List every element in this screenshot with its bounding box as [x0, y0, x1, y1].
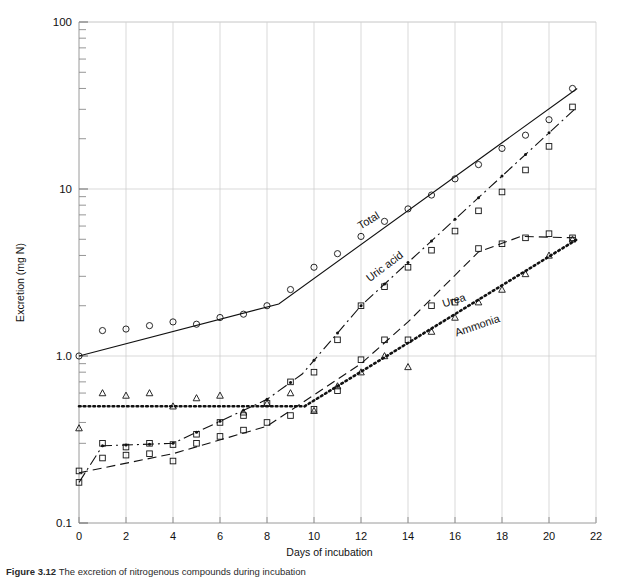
excretion-chart: 0.11.0101000246810121416182022 TotalUric… [0, 0, 627, 580]
y-axis-title: Excretion (mg N) [14, 243, 26, 322]
x-tick-label: 0 [76, 530, 82, 542]
x-tick-label: 18 [496, 530, 508, 542]
data-point-dot [101, 444, 104, 447]
x-tick-label: 4 [170, 530, 176, 542]
data-point-dot [454, 218, 457, 221]
caption-text: The excretion of nitrogenous compounds d… [59, 566, 306, 577]
y-tick-label: 0.1 [56, 517, 72, 529]
x-tick-label: 16 [449, 530, 461, 542]
y-tick-label: 1.0 [56, 350, 72, 362]
data-point-dot [501, 175, 504, 178]
figure-container: 0.11.0101000246810121416182022 TotalUric… [0, 0, 627, 580]
y-tick-label: 100 [53, 16, 72, 28]
x-axis-title: Days of incubation [286, 546, 373, 558]
data-point-dot [219, 420, 222, 423]
x-tick-label: 6 [217, 530, 223, 542]
x-tick-label: 8 [264, 530, 270, 542]
x-tick-label: 2 [123, 530, 129, 542]
x-tick-label: 22 [590, 530, 602, 542]
x-tick-label: 20 [543, 530, 555, 542]
data-point-dot [289, 381, 292, 384]
data-point-dot [148, 443, 151, 446]
data-point-dot [524, 153, 527, 156]
x-tick-label: 14 [402, 530, 414, 542]
data-point-dot [313, 359, 316, 362]
data-point-dot [336, 332, 339, 335]
data-point-dot [195, 431, 198, 434]
figure-caption: Figure 3.12 The excretion of nitrogenous… [6, 566, 621, 579]
data-point-dot [430, 239, 433, 242]
chart-background [0, 0, 627, 580]
data-point-dot [383, 283, 386, 286]
data-point-dot [477, 196, 480, 199]
caption-number: Figure 3.12 [6, 566, 56, 577]
data-point-dot [360, 304, 363, 307]
data-point-dot [125, 443, 128, 446]
data-point-dot [172, 442, 175, 445]
data-point-dot [548, 131, 551, 134]
x-tick-label: 12 [355, 530, 367, 542]
data-point-dot [407, 261, 410, 264]
y-tick-label: 10 [59, 183, 72, 195]
x-tick-label: 10 [308, 530, 320, 542]
